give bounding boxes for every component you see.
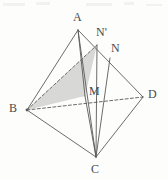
scan-artifact-2	[86, 3, 112, 6]
vertex-label-d: D	[148, 88, 157, 100]
vertex-dot-b	[26, 109, 29, 112]
point-label-m: M	[89, 85, 100, 97]
geometry-figure: A B C D M N N'	[0, 0, 168, 180]
scan-artifact-4	[146, 4, 162, 6]
vertex-label-b: B	[9, 102, 17, 114]
edge-layer	[27, 30, 143, 157]
segment-NprimeC	[96, 45, 97, 157]
edge-BC	[27, 110, 96, 157]
segment-MC	[85, 96, 96, 157]
point-label-n: N	[111, 42, 120, 54]
scan-artifact-1	[36, 2, 50, 5]
vertex-dot-layer	[26, 109, 29, 112]
vertex-label-a: A	[73, 11, 82, 23]
point-label-n-prime: N'	[96, 26, 107, 38]
tetrahedron-diagram	[0, 0, 168, 180]
scan-artifact-0	[3, 3, 25, 6]
scan-artifact-3	[124, 2, 134, 5]
vertex-label-c: C	[91, 163, 99, 175]
